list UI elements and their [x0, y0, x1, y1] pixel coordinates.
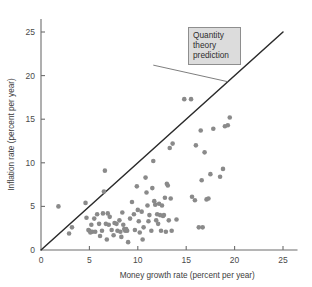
leader-line	[153, 65, 228, 82]
data-point	[150, 186, 155, 191]
data-point	[156, 222, 161, 227]
data-point	[162, 213, 167, 218]
data-point	[133, 228, 138, 233]
data-point	[136, 219, 141, 224]
data-point	[218, 174, 223, 179]
data-point	[100, 229, 105, 234]
data-point	[193, 198, 198, 203]
data-point	[83, 201, 88, 206]
data-point	[121, 222, 126, 227]
data-point	[149, 229, 154, 234]
data-point	[189, 97, 194, 102]
data-points	[56, 97, 232, 245]
data-point	[170, 141, 175, 146]
y-tick-label: 10	[26, 158, 36, 168]
data-point	[102, 189, 107, 194]
data-point	[144, 190, 149, 195]
data-point	[120, 210, 125, 215]
data-point	[200, 225, 205, 230]
data-point	[128, 216, 133, 221]
x-tick-label: 25	[278, 255, 288, 265]
data-point	[145, 203, 150, 208]
data-point	[111, 233, 116, 238]
data-point	[93, 229, 98, 234]
data-point	[167, 146, 172, 151]
data-point	[211, 126, 216, 131]
data-point	[160, 203, 165, 208]
data-point	[169, 229, 174, 234]
data-point	[143, 175, 148, 180]
data-point	[163, 195, 168, 200]
data-point	[141, 225, 146, 230]
data-point	[126, 240, 131, 245]
data-point	[137, 230, 142, 235]
data-point	[103, 168, 108, 173]
annotation-leader-line	[153, 65, 228, 82]
data-point	[159, 229, 164, 234]
data-point	[84, 215, 89, 220]
data-point	[146, 219, 151, 224]
data-point	[208, 172, 213, 177]
data-point	[198, 128, 203, 133]
scatter-chart-figure: 05101520250510152025Money growth rate (p…	[0, 0, 312, 287]
data-point	[125, 229, 130, 234]
data-point	[95, 212, 100, 217]
data-point	[166, 218, 171, 223]
data-point	[67, 231, 72, 236]
data-point	[105, 237, 110, 242]
data-point	[164, 229, 169, 234]
data-point	[106, 222, 111, 227]
data-point	[118, 229, 123, 234]
data-point	[221, 167, 226, 172]
y-tick-label: 20	[26, 71, 36, 81]
data-point	[117, 218, 122, 223]
data-point	[168, 196, 173, 201]
data-point	[153, 202, 158, 207]
data-point	[174, 217, 179, 222]
x-tick-label: 0	[39, 255, 44, 265]
x-tick-label: 5	[87, 255, 92, 265]
data-point	[202, 150, 207, 155]
data-point	[119, 235, 124, 240]
data-point	[132, 212, 137, 217]
data-point	[70, 225, 75, 230]
data-point	[101, 211, 106, 216]
data-point	[109, 228, 114, 233]
data-point	[151, 159, 156, 164]
y-tick-label: 0	[30, 245, 35, 255]
data-point	[182, 97, 187, 102]
x-tick-label: 15	[181, 255, 191, 265]
data-point	[97, 222, 102, 227]
data-point	[199, 178, 204, 183]
annotation-line-3: prediction	[193, 51, 236, 61]
data-point	[98, 234, 103, 239]
y-axis-title: Inflation rate (percent per year)	[7, 78, 16, 191]
data-point	[107, 215, 112, 220]
data-point	[92, 216, 97, 221]
data-point	[130, 200, 135, 205]
data-point	[194, 143, 199, 148]
data-point	[226, 123, 231, 128]
y-tick-label: 25	[26, 27, 36, 37]
data-point	[135, 184, 140, 189]
data-point	[140, 237, 145, 242]
data-point	[166, 183, 171, 188]
x-axis-title: Money growth rate (percent per year)	[120, 271, 255, 280]
data-point	[227, 115, 232, 120]
x-tick-label: 10	[133, 255, 143, 265]
data-point	[206, 196, 211, 201]
y-tick-label: 5	[30, 201, 35, 211]
quantity-theory-annotation: Quantity theory prediction	[188, 27, 241, 65]
x-tick-label: 20	[230, 255, 240, 265]
y-tick-label: 15	[26, 114, 36, 124]
data-point	[89, 222, 94, 227]
chart-canvas: 05101520250510152025Money growth rate (p…	[0, 0, 312, 287]
data-point	[139, 209, 144, 214]
data-point	[56, 204, 61, 209]
data-point	[147, 213, 152, 218]
